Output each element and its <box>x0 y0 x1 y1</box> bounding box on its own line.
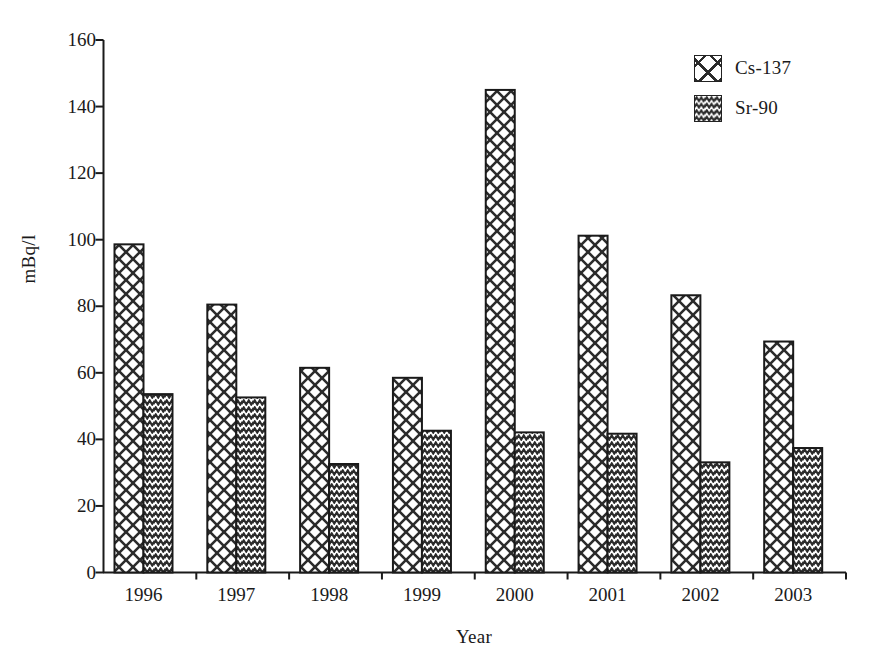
y-tick-label: 100 <box>50 230 96 249</box>
legend-label-sr90: Sr-90 <box>735 97 778 119</box>
bar-sr-90-2001 <box>608 434 637 573</box>
bar-sr-90-1998 <box>329 464 358 572</box>
bar-sr-90-2002 <box>700 462 729 572</box>
legend-swatch-cs137 <box>694 55 722 82</box>
y-tick-label: 160 <box>50 30 96 49</box>
x-axis-ticks <box>196 573 846 580</box>
y-axis-tick-labels: 020406080100120140160 <box>40 0 96 663</box>
x-tick-label-1999: 1999 <box>387 585 457 604</box>
x-tick-label-1997: 1997 <box>201 585 271 604</box>
bar-sr-90-2000 <box>515 432 544 572</box>
x-tick-label-2003: 2003 <box>758 585 828 604</box>
x-tick-label-2002: 2002 <box>665 585 735 604</box>
bar-sr-90-1999 <box>422 431 451 573</box>
bar-cs-137-2003 <box>764 342 793 573</box>
y-tick-label: 120 <box>50 163 96 182</box>
y-tick-label: 40 <box>50 429 96 448</box>
bar-sr-90-1996 <box>144 394 173 572</box>
x-axis-label: Year <box>103 626 845 648</box>
x-tick-label-1998: 1998 <box>294 585 364 604</box>
y-axis-ticks <box>96 40 104 573</box>
bar-sr-90-1997 <box>236 397 265 572</box>
x-tick-label-1996: 1996 <box>109 585 179 604</box>
legend-swatch-sr90 <box>694 95 722 122</box>
bar-cs-137-1997 <box>207 305 236 573</box>
legend-item-sr90: Sr-90 <box>694 88 791 128</box>
y-tick-label: 20 <box>50 496 96 515</box>
y-tick-label: 140 <box>50 97 96 116</box>
y-tick-label: 80 <box>50 296 96 315</box>
bar-cs-137-2000 <box>486 90 515 573</box>
chart-legend: Cs-137 Sr-90 <box>694 48 791 128</box>
x-tick-label-2000: 2000 <box>480 585 550 604</box>
bar-chart-figure: 020406080100120140160 mBq/l 199619971998… <box>0 0 884 663</box>
bar-sr-90-2003 <box>793 448 822 572</box>
bar-cs-137-2001 <box>579 236 608 573</box>
y-tick-label: 0 <box>50 563 96 582</box>
y-axis-label: mBq/l <box>18 194 40 324</box>
bar-cs-137-1998 <box>300 368 329 573</box>
bar-cs-137-1996 <box>115 244 144 572</box>
legend-label-cs137: Cs-137 <box>735 57 791 79</box>
chart-bars <box>115 90 823 573</box>
y-tick-label: 60 <box>50 363 96 382</box>
x-tick-label-2001: 2001 <box>573 585 643 604</box>
legend-item-cs137: Cs-137 <box>694 48 791 88</box>
bar-cs-137-1999 <box>393 378 422 573</box>
bar-cs-137-2002 <box>671 295 700 572</box>
